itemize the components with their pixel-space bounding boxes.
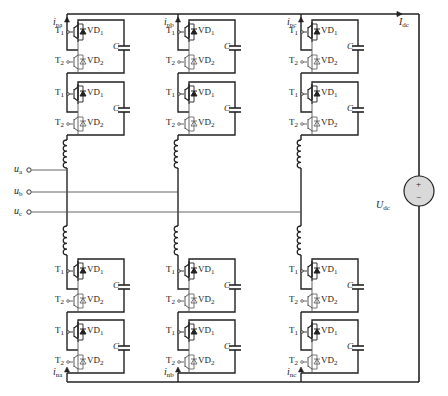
gate-terminal-icon [178,123,181,126]
submodule-input-lead [178,20,189,50]
submodule-c-upper-2-t2-label-subscript: 2 [295,121,299,129]
submodule-a-upper-2-t2-label-subscript: 2 [61,121,65,129]
phase-c-upper-current-arrow-icon [299,17,304,22]
diode-vd1-icon [191,91,197,96]
submodule-b-upper-1-vd1-label: VD1 [198,26,215,37]
submodule-b-upper-2-capacitor-label: C [224,104,230,113]
phase-a-lower-current-arrow-icon [65,367,70,372]
submodule-a-lower-2-vd1-label: VD1 [87,326,104,337]
submodule-b-upper-2-vd1-label: VD1 [198,88,215,99]
submodule-b-upper-1-t2-label-subscript: 2 [172,59,176,67]
submodule-a-lower-2-capacitor-label: C [113,342,119,351]
submodule-c-upper-1-vd2-label: VD2 [321,56,338,67]
submodule-a-lower-2-vd2-label-subscript: 2 [100,359,104,367]
inductor-coil-icon [63,140,67,168]
submodule-c-upper-1-t1-label-subscript: 1 [295,29,299,37]
submodule-b-upper-1-t2-label: T2 [166,56,175,67]
submodule-c-lower-2-vd1-label-main: VD [321,325,334,335]
dc-current-label-subscript: dc [402,21,409,29]
submodule-c-lower-2-capacitor-label-main: C [347,341,353,351]
gate-terminal-icon [178,31,181,34]
ac-input-c-label-subscript: c [19,210,22,218]
submodule-input-lead [67,320,78,350]
submodule-c-upper-2-capacitor-label-main: C [347,103,353,113]
submodule-b-upper-1-t1-label-subscript: 1 [172,29,176,37]
submodule-a-upper-2-vd1-label-main: VD [87,87,100,97]
gate-terminal-icon [67,61,70,64]
diode-vd2-lead [312,294,317,308]
submodule-c-lower-1-vd1-label-subscript: 1 [334,268,338,276]
submodule-c-upper-1-t2-label: T2 [289,56,298,67]
submodule-b-lower-1-vd2-label-main: VD [198,294,211,304]
gate-terminal-icon [178,93,181,96]
ac-input-a-label: ua [14,164,22,176]
submodule-a-lower-2-t2-label-subscript: 2 [61,359,65,367]
gate-terminal-icon [178,331,181,334]
submodule-c-lower-2-vd2-label: VD2 [321,356,338,367]
phase-c-lower-current-arrow-icon [299,367,304,372]
inductor-a-upper [63,140,67,168]
diode-vd1-icon [314,29,320,34]
inductor-a-lower [63,226,67,255]
gate-terminal-icon [67,93,70,96]
dc-source-plus-sign-main: + [416,179,421,189]
diode-vd1-icon [80,91,86,96]
submodule-c-lower-2-t1-label-subscript: 1 [295,329,299,337]
submodule-c-upper-2-vd2-label-main: VD [321,117,334,127]
submodule-a-upper-2-vd2-label-subscript: 2 [100,121,104,129]
diode-vd1-icon [314,329,320,334]
diode-vd2-lead [78,355,83,369]
dc-voltage-label-subscript: dc [383,204,390,212]
submodule-a-lower-2-t1-label: T1 [55,326,64,337]
inductor-coil-icon [297,226,301,255]
submodule-a-upper-1-vd2-label: VD2 [87,56,104,67]
submodule-b-lower-2-vd1-label-main: VD [198,325,211,335]
inductor-c-lower [297,226,301,255]
submodule-c-upper-1-t2-label-subscript: 2 [295,59,299,67]
phase-b-upper-current-label: ipb [164,17,174,29]
phase-b-lower-current-label-subscript: nb [167,371,174,379]
diode-vd1-icon [314,268,320,273]
submodule-a-upper-2-vd2-label-main: VD [87,117,100,127]
gate-terminal-icon [301,331,304,334]
submodule-c-lower-1-vd1-label-main: VD [321,264,334,274]
submodule-a-lower-1-vd2-label-main: VD [87,294,100,304]
submodule-a-lower-1-t1-label-subscript: 1 [61,268,65,276]
submodule-a-upper-1-t1-label-subscript: 1 [61,29,65,37]
submodule-c-upper-2-vd1-label-subscript: 1 [334,91,338,99]
ac-input-a-label-subscript: a [19,168,22,176]
submodule-c-lower-1-t1-label: T1 [289,265,298,276]
submodule-c-lower-1-t2-label: T2 [289,295,298,306]
phase-a-upper-current-arrow-icon [65,17,70,22]
submodule-c-lower-1-capacitor-label-main: C [347,280,353,290]
submodule-input-lead [67,20,78,50]
diode-vd2-lead [312,117,317,131]
gate-terminal-icon [301,300,304,303]
gate-terminal-icon [301,123,304,126]
gate-terminal-icon [67,300,70,303]
diode-vd1-icon [191,268,197,273]
submodule-c-upper-1-vd1-label: VD1 [321,26,338,37]
submodule-a-upper-2-vd1-label-subscript: 1 [100,91,104,99]
submodule-c-upper-1-vd2-label-subscript: 2 [334,59,338,67]
submodule-b-upper-1-capacitor-label: C [224,42,230,51]
submodule-b-lower-1-vd2-label-subscript: 2 [211,298,215,306]
inductor-coil-icon [174,140,178,168]
phase-c-upper-current-label: ipc [287,17,296,29]
submodule-c-lower-1-vd2-label: VD2 [321,295,338,306]
submodule-b-upper-2-t1-label: T1 [166,88,175,99]
phase-c-upper-current-label-subscript: pc [290,21,297,29]
submodule-a-upper-1-vd2-label-main: VD [87,55,100,65]
submodule-a-upper-2-t2-label: T2 [55,118,64,129]
igbt-t2-icon [185,117,189,131]
gate-terminal-icon [178,361,181,364]
submodule-input-lead [301,320,312,350]
diode-vd1-icon [191,329,197,334]
igbt-t2-icon [74,294,78,308]
submodule-a-upper-1-capacitor-label-main: C [113,41,119,51]
inductor-b-lower [174,226,178,255]
submodule-b-lower-2-capacitor-label: C [224,342,230,351]
gate-terminal-icon [67,31,70,34]
submodule-c-lower-2-vd2-label-subscript: 2 [334,359,338,367]
submodule-c-upper-2-t1-label-subscript: 1 [295,91,299,99]
